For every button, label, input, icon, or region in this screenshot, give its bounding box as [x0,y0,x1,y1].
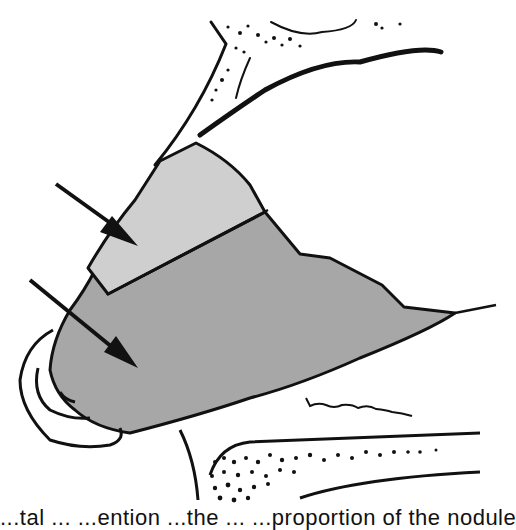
lower-bone [180,430,480,500]
figure-caption: ...tal ... ...ention ...the ... ...propo… [0,506,511,530]
wavy-line [306,398,412,416]
bone-speckles-bottom [210,449,438,503]
ragged-edge [455,305,496,313]
